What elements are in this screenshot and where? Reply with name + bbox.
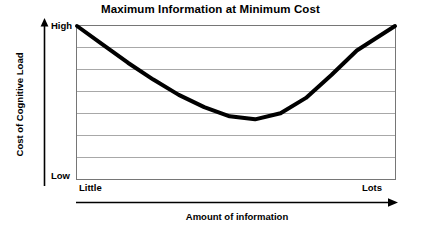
y-axis-title: Cost of Cognitive Load bbox=[14, 45, 25, 165]
cost-curve-plot bbox=[77, 26, 395, 179]
cost-curve-line bbox=[77, 26, 395, 119]
x-tick-label-lots: Lots bbox=[362, 182, 382, 193]
plot-area bbox=[76, 25, 396, 180]
chart-title: Maximum Information at Minimum Cost bbox=[0, 2, 421, 16]
y-tick-label-high: High bbox=[51, 20, 72, 31]
y-axis-arrow-icon bbox=[40, 18, 49, 186]
x-axis-arrow-icon bbox=[76, 196, 398, 209]
x-axis-title: Amount of information bbox=[76, 211, 398, 222]
chart-container: Maximum Information at Minimum Cost Cost… bbox=[0, 0, 421, 233]
y-tick-label-low: Low bbox=[51, 170, 70, 181]
x-tick-label-little: Little bbox=[79, 182, 102, 193]
